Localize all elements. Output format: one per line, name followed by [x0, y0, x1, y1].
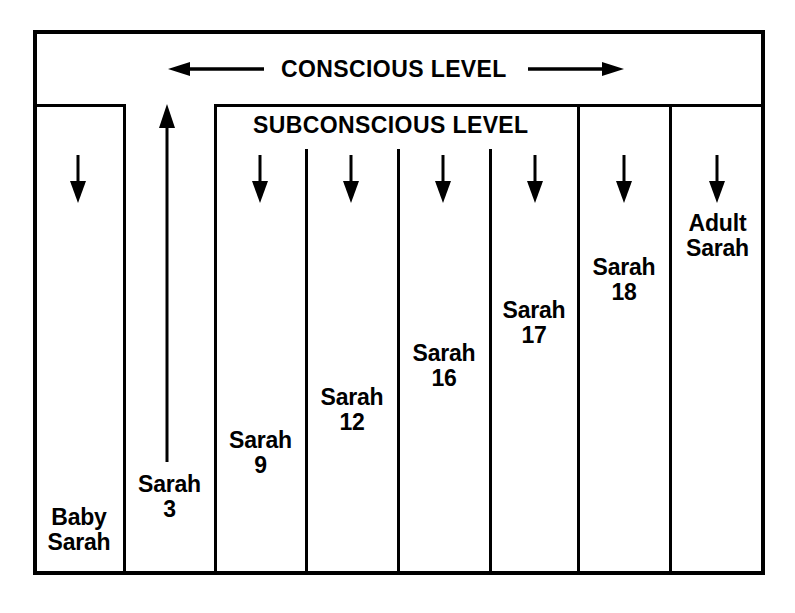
arrow-right: [528, 62, 624, 76]
column-label-sarah-17: Sarah 17: [492, 298, 576, 348]
baby-sarah-box-top-border: [33, 104, 126, 107]
column-label-sarah-18: Sarah 18: [580, 255, 668, 305]
subconscious-level-label: SUBCONSCIOUS LEVEL: [253, 112, 529, 139]
column-label-sarah-9: Sarah 9: [217, 428, 304, 478]
divider-sarah-16-right: [489, 149, 492, 575]
arrow-down-sarah-16: [435, 155, 451, 203]
column-label-sarah-12: Sarah 12: [308, 385, 396, 435]
arrow-down-sarah-12: [343, 155, 359, 203]
arrow-down-sarah-18: [616, 155, 632, 203]
divider-adult-sarah-left: [669, 104, 672, 575]
divider-subconscious-right: [577, 104, 580, 575]
arrow-left: [168, 62, 264, 76]
arrow-down-sarah-17: [527, 155, 543, 203]
adult-sarah-box-top-border: [670, 104, 765, 107]
column-label-sarah-16: Sarah 16: [400, 341, 488, 391]
sarah-18-box-top-border: [578, 104, 671, 107]
subconscious-box-top-border: [214, 104, 579, 107]
column-label-adult-sarah: Adult Sarah: [672, 211, 763, 261]
arrow-down-sarah-9: [252, 155, 268, 203]
column-label-sarah-3: Sarah 3: [126, 472, 213, 522]
arrow-down-adult-sarah: [709, 155, 725, 203]
column-label-baby-sarah: Baby Sarah: [36, 505, 122, 555]
diagram-canvas: CONSCIOUS LEVEL SUBCONSCIOUS LEVEL: [0, 0, 795, 613]
divider-sarah-9-right: [305, 149, 308, 575]
conscious-level-label: CONSCIOUS LEVEL: [281, 56, 507, 83]
arrow-down-baby-sarah: [70, 155, 86, 203]
divider-subconscious-left: [214, 104, 217, 575]
arrow-up-sarah-3: [159, 104, 175, 462]
